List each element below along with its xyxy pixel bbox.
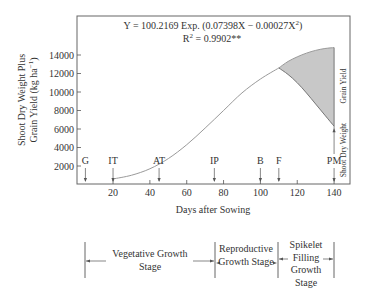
arrow-head-icon	[332, 178, 335, 182]
x-tick-label: 20	[108, 187, 118, 198]
stage-label: Filling	[293, 252, 320, 263]
y-axis-label-line1: Shoot Dry Weight Plus	[16, 54, 27, 146]
stage-label: Stage	[139, 261, 162, 272]
y-tick-label: 14000	[49, 50, 74, 61]
stage-label: Vegetative Growth	[112, 248, 187, 259]
grain-yield-shaded-area	[279, 48, 334, 127]
marker-label-f: F	[276, 155, 282, 166]
stage-label: Growth	[291, 264, 322, 275]
arrow-head-icon	[213, 178, 216, 182]
r-squared: R2 = 0.9902**	[183, 32, 241, 44]
x-tick-label: 40	[145, 187, 155, 198]
equation: Y = 100.2169 Exp. (0.07398X − 0.00027X2)	[124, 19, 303, 32]
grain-yield-label: Grain Yield	[339, 68, 348, 103]
arrow-head-icon	[210, 259, 214, 262]
growth-chart: 2000400060008000100001200014000 20406080…	[0, 0, 368, 300]
y-axis-label-line2: Grain Yield (kg ha−1)	[27, 57, 40, 142]
y-tick-label: 8000	[54, 105, 74, 116]
y-tick-label: 10000	[49, 87, 74, 98]
marker-label-ip: IP	[210, 155, 219, 166]
series-line-total	[113, 68, 279, 179]
arrow-head-icon	[279, 257, 283, 260]
arrow-head-icon	[329, 257, 333, 260]
stage-label: Spikelet	[290, 239, 323, 250]
x-tick-label: 60	[182, 187, 192, 198]
arrow-head-icon	[332, 128, 335, 132]
stage-label: Reproductive	[219, 243, 273, 254]
shoot-dry-weight-label: Shoot Dry Weight	[339, 122, 348, 177]
marker-label-b: B	[257, 155, 264, 166]
marker-label-it: IT	[108, 155, 117, 166]
arrow-head-icon	[111, 178, 114, 182]
stage-label: Stage	[295, 277, 318, 288]
y-tick-label: 6000	[54, 124, 74, 135]
x-tick-label: 140	[327, 187, 342, 198]
arrow-head-icon	[157, 178, 160, 182]
x-tick-label: 80	[219, 187, 229, 198]
x-axis-label: Days after Sowing	[176, 204, 250, 215]
arrow-head-icon	[259, 178, 262, 182]
x-tick-label: 120	[290, 187, 305, 198]
arrow-head-icon	[277, 178, 280, 182]
arrow-head-icon	[86, 259, 90, 262]
y-tick-label: 2000	[54, 161, 74, 172]
marker-label-at: AT	[153, 155, 165, 166]
x-tick-label: 100	[253, 187, 268, 198]
arrow-head-icon	[84, 178, 87, 182]
stage-label: Growth Stage	[218, 256, 274, 267]
y-tick-label: 12000	[49, 68, 74, 79]
marker-label-g: G	[82, 155, 89, 166]
y-tick-label: 4000	[54, 142, 74, 153]
